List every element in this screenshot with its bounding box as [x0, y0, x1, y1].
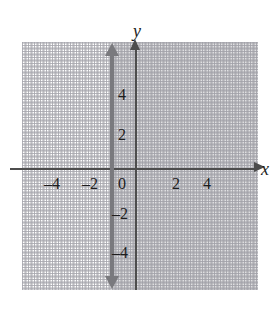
y-tick-label-4: 4 [118, 87, 126, 103]
y-tick-label-neg4: –4 [112, 245, 128, 261]
x-tick-label-neg2: –2 [82, 176, 98, 192]
y-tick-label-neg2: –2 [112, 206, 128, 222]
y-tick-label-2: 2 [118, 127, 126, 143]
x-axis-label: x [261, 160, 269, 178]
x-tick-label-zero: 0 [118, 176, 126, 192]
x-tick-label-neg4: –4 [44, 176, 60, 192]
boundary-arrow-up-icon [105, 43, 119, 56]
plot-area: –4 –2 0 2 4 4 2 –2 –4 [22, 42, 258, 290]
x-axis-line [10, 168, 256, 170]
shaded-solution-region [112, 42, 258, 290]
boundary-arrow-down-icon [105, 276, 119, 289]
y-axis-label: y [133, 22, 141, 40]
y-axis-line [135, 50, 137, 290]
inequality-graph-figure: –4 –2 0 2 4 4 2 –2 –4 x y [0, 0, 279, 318]
x-tick-label-4: 4 [203, 176, 211, 192]
x-tick-label-2: 2 [172, 176, 180, 192]
